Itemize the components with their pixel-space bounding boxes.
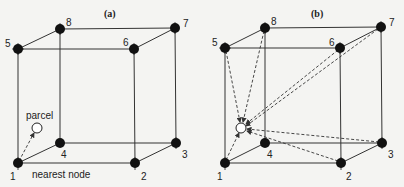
panel-b-cube-edges xyxy=(225,27,382,163)
label-2: 2 xyxy=(346,171,352,182)
node-5 xyxy=(12,43,24,55)
node-7 xyxy=(376,21,386,33)
node-3 xyxy=(171,137,181,149)
node-2 xyxy=(336,157,346,170)
label-3: 3 xyxy=(388,149,394,160)
node-4 xyxy=(260,138,270,148)
label-8: 8 xyxy=(66,17,72,28)
label-3: 3 xyxy=(182,149,188,160)
node-8 xyxy=(55,23,65,35)
node-6 xyxy=(129,43,139,55)
node-7 xyxy=(170,22,180,34)
panel-a-cube-edges xyxy=(18,28,176,163)
label-1: 1 xyxy=(10,171,16,182)
label-2: 2 xyxy=(141,171,147,182)
label-4: 4 xyxy=(61,149,67,160)
panel-a-title: (a) xyxy=(104,8,116,20)
label-6: 6 xyxy=(123,37,129,48)
node-6 xyxy=(335,42,345,54)
node-8 xyxy=(260,22,270,34)
label-6: 6 xyxy=(329,37,335,48)
node-1 xyxy=(220,157,230,170)
panel-b-parcel xyxy=(236,123,246,133)
panel-b-interpolation-links xyxy=(226,29,379,161)
panel-b-nodes xyxy=(219,21,387,170)
panel-b: (b) xyxy=(212,8,395,182)
panel-b-title: (b) xyxy=(311,8,323,20)
nearest-node-label: nearest node xyxy=(32,169,91,180)
node-5 xyxy=(219,42,231,54)
parcel-label: parcel xyxy=(26,110,53,121)
node-4 xyxy=(55,138,65,148)
label-7: 7 xyxy=(389,17,395,28)
node-3 xyxy=(377,137,387,149)
panel-a-nodes xyxy=(12,22,181,170)
diagram-canvas: (a) xyxy=(0,0,404,187)
label-7: 7 xyxy=(183,18,189,29)
label-8: 8 xyxy=(271,16,277,27)
panel-a-parcel xyxy=(32,123,42,133)
node-2 xyxy=(130,157,140,170)
label-5: 5 xyxy=(5,38,11,49)
node-1 xyxy=(13,157,23,170)
label-1: 1 xyxy=(217,171,223,182)
panel-a: (a) xyxy=(5,8,189,182)
label-4: 4 xyxy=(267,149,273,160)
label-5: 5 xyxy=(212,37,218,48)
